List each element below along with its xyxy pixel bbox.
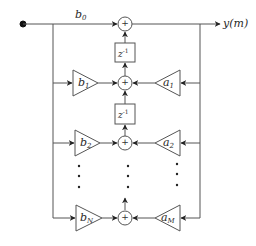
label-output: y(m) <box>223 18 248 29</box>
ellipsis-dots <box>78 163 178 188</box>
label-a1: a1 <box>163 77 174 90</box>
label-b1: b1 <box>78 77 90 90</box>
label-b0: b0 <box>75 9 87 22</box>
iir-filter-diagram <box>0 0 256 246</box>
adder-1-symbol: + <box>118 78 132 87</box>
delay-2-label: z-1 <box>118 109 129 120</box>
label-b2: b2 <box>80 137 92 150</box>
label-bN: bN <box>80 212 93 225</box>
adder-0-symbol: + <box>118 19 132 28</box>
label-a2: a2 <box>163 137 174 150</box>
delay-1-label: z-1 <box>118 48 129 59</box>
label-aM: aM <box>161 212 175 225</box>
adder-N-symbol: + <box>118 213 132 222</box>
adder-2-symbol: + <box>118 138 132 147</box>
